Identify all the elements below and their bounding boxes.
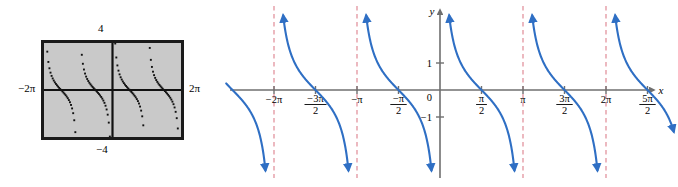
calculator-dot (108, 122, 110, 124)
calculator-top-label: 4 (98, 22, 104, 34)
calculator-dot (109, 136, 111, 137)
calculator-dot (169, 97, 171, 99)
calculator-dot (105, 105, 107, 107)
calculator-left-label: −2π (18, 82, 35, 94)
calculator-dot (100, 96, 102, 98)
y-tick-label: 1 (427, 58, 432, 69)
calculator-dot (51, 75, 53, 77)
calculator-dot (86, 78, 88, 80)
calculator-dot (114, 43, 116, 44)
calculator-dot (122, 81, 124, 83)
calculator-dot (72, 112, 74, 114)
calculator-plot (44, 43, 181, 137)
calculator-dot (170, 99, 172, 101)
calculator-panel: 4 −4 −2π 2π (0, 0, 222, 187)
calculator-dot (153, 74, 155, 76)
calculator-dot (175, 111, 177, 113)
calculator-dot (150, 59, 152, 61)
calculator-dot (71, 107, 73, 109)
calculator-dot (121, 79, 123, 81)
calculator-dot (152, 71, 154, 73)
calculator-dot (115, 57, 117, 59)
calculator-dot (52, 77, 54, 79)
calculator-dot (106, 109, 108, 111)
calculator-dot (135, 96, 137, 98)
calculator-dot (155, 79, 157, 81)
x-tick-label: 2π (601, 94, 612, 105)
y-axis-label: y (429, 5, 435, 17)
calculator-dot (87, 80, 89, 82)
cotangent-figure: 4 −4 −2π 2π (0, 0, 678, 187)
calculator-dot (48, 67, 50, 69)
calculator-dot (83, 69, 85, 71)
calculator-dot (53, 80, 55, 82)
calculator-dot (73, 119, 75, 121)
calculator-dot (151, 66, 153, 68)
calculator-dot (104, 102, 106, 104)
x-tick-label: −2π (266, 94, 283, 105)
coordinate-graph-panel: x y 10−1 −2π−3π2−π−π2π2π3π22π5π2 (222, 0, 678, 187)
calculator-dot (68, 99, 70, 101)
x-tick-label-numerator: π (479, 93, 485, 104)
x-tick-label-denominator: 2 (479, 105, 484, 116)
calculator-dot (154, 77, 156, 79)
calculator-dot (107, 114, 109, 116)
calculator-right-label: 2π (189, 82, 200, 94)
cotangent-branch (226, 83, 265, 170)
x-tick-label-denominator: 2 (645, 105, 650, 116)
x-tick-label-denominator: 2 (562, 105, 567, 116)
x-tick-label: −π (351, 94, 363, 105)
calculator-dot (116, 64, 118, 66)
calculator-dot (138, 103, 140, 105)
calculator-dot (74, 131, 76, 133)
calculator-dot (85, 76, 87, 78)
x-tick-label-numerator: −3π (307, 93, 324, 104)
calculator-dot (81, 54, 83, 56)
x-axis-label: x (658, 84, 664, 96)
calculator-dot (118, 70, 120, 72)
calculator-dot (139, 106, 141, 108)
calculator-dot (50, 72, 52, 74)
calculator-dot (174, 107, 176, 109)
calculator-dot (177, 128, 179, 130)
y-tick-label: −1 (421, 112, 432, 123)
calculator-dot (47, 61, 49, 63)
x-tick-label-denominator: 2 (396, 105, 401, 116)
calculator-dot (176, 117, 178, 119)
x-tick-label-denominator: 2 (313, 105, 318, 116)
calculator-dot (137, 100, 139, 102)
calculator-dot (70, 104, 72, 106)
cotangent-graph: x y 10−1 −2π−3π2−π−π2π2π3π22π5π2 (222, 0, 678, 187)
calculator-dot (102, 100, 104, 102)
calculator-dot (141, 115, 143, 117)
calculator-dot (46, 51, 48, 53)
calculator-dot (140, 110, 142, 112)
calculator-dot (149, 47, 151, 49)
calculator-screen-frame (41, 40, 184, 140)
calculator-dot (84, 73, 86, 75)
calculator-dot (173, 103, 175, 105)
x-tick-label: π (520, 94, 526, 105)
calculator-dot (67, 97, 69, 99)
calculator-dot (142, 124, 144, 126)
y-tick-label: 0 (427, 92, 432, 103)
calculator-dot (69, 101, 71, 103)
calculator-bottom-label: −4 (96, 143, 108, 155)
calculator-dot (120, 76, 122, 78)
calculator-dot (82, 63, 84, 65)
calculator-dot (136, 98, 138, 100)
calculator-dot (171, 101, 173, 103)
calculator-dot (101, 98, 103, 100)
calculator-dot (119, 73, 121, 75)
